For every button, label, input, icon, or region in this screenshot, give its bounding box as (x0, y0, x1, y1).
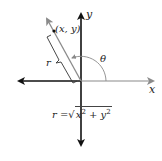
point-label: (x, y) (55, 23, 81, 34)
formula-x-exponent: 2 (81, 108, 85, 116)
theta-label: θ (100, 53, 106, 64)
y-axis-label: y (85, 8, 93, 21)
polar-coordinate-diagram: y x (x, y) r θ (0, 0, 162, 161)
formula-lhs: r (52, 109, 57, 120)
formula-plus: + (89, 109, 97, 120)
radicand: x2 + y2 (75, 106, 112, 120)
radius-formula: r =√x2 + y2 (52, 106, 112, 120)
radius-bracket (47, 35, 77, 83)
formula-y-exponent: 2 (106, 108, 110, 116)
x-axis-label: x (149, 83, 156, 96)
radius-label: r (46, 57, 52, 68)
